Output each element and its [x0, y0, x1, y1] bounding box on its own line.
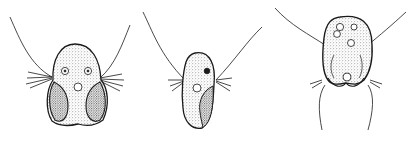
cell-3 — [275, 8, 406, 130]
protist-illustration — [0, 0, 413, 141]
cell-2 — [143, 12, 262, 128]
cell-1 — [10, 17, 130, 126]
